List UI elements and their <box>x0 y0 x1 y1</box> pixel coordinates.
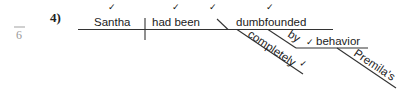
sentence-diagram: 6 4) ✓ Santha ✓ had been ✓ ✓ dumbfounded… <box>0 0 413 94</box>
verb-word: had been <box>152 16 200 28</box>
preposition-word: by <box>286 28 303 45</box>
complement-word: dumbfounded <box>236 16 306 28</box>
check-mark-verb: ✓ <box>172 2 180 12</box>
complement-separator <box>217 19 228 30</box>
check-mark-separator: ✓ <box>209 2 217 12</box>
possessive-word: Premila's <box>352 47 398 83</box>
problem-number: 4) <box>50 10 61 25</box>
check-mark-preposition: ✓ <box>306 37 314 47</box>
subject-word: Santha <box>94 16 131 28</box>
check-mark-subject: ✓ <box>108 2 116 12</box>
check-mark-adverb: ✓ <box>299 58 308 69</box>
check-mark-complement: ✓ <box>266 2 274 12</box>
object-word: behavior <box>316 35 360 47</box>
page-number: 6 <box>16 28 22 42</box>
